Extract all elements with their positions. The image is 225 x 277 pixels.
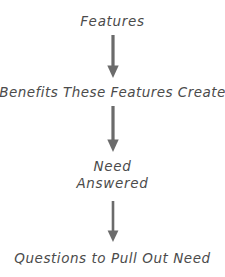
node-benefits: Benefits These Features Create: [0, 84, 225, 101]
node-features: Features: [80, 13, 145, 30]
arrow-down-icon-2: [105, 106, 121, 153]
node-need-line-2: Answered: [76, 175, 148, 192]
node-need: Need Answered: [76, 158, 148, 191]
arrow-down-icon-3: [105, 201, 121, 243]
node-need-line-1: Need: [93, 158, 131, 174]
node-questions: Questions to Pull Out Need: [14, 250, 210, 267]
flowchart-diagram: Features Benefits These Features Create …: [0, 0, 225, 277]
arrow-down-icon-1: [105, 35, 121, 79]
